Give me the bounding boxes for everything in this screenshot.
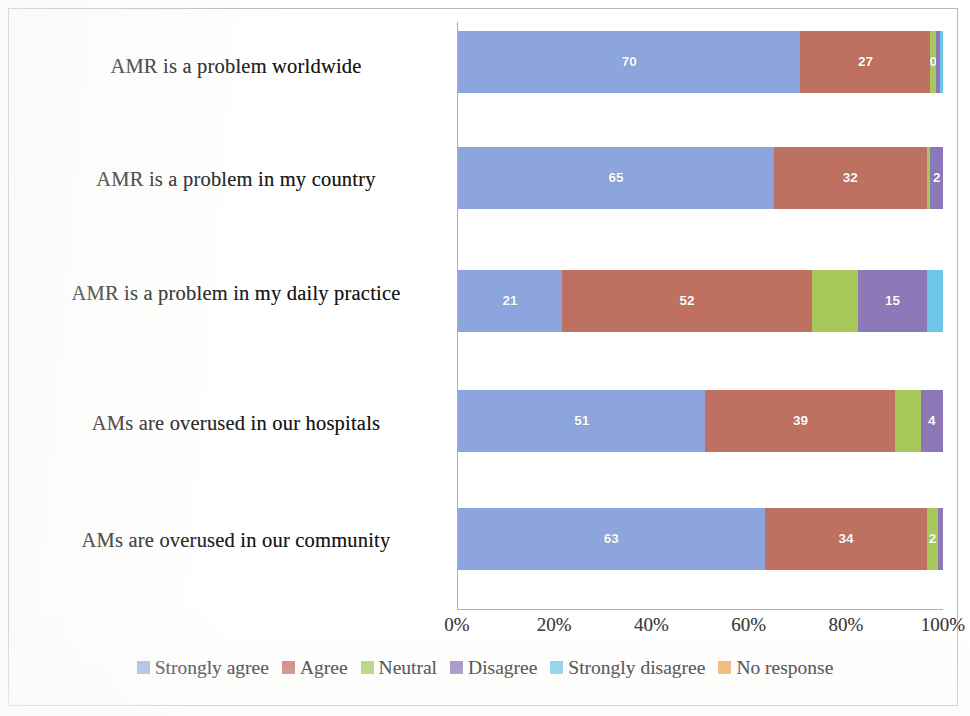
table-row[interactable]: 65 32 2 [458,147,943,209]
legend-swatch-icon [137,661,150,674]
legend-item-no-response[interactable]: No response [718,658,833,678]
bar-value-label: 63 [604,532,619,546]
legend-swatch-icon [450,661,463,674]
legend-label: Neutral [379,658,437,678]
legend-label: Agree [300,658,348,678]
bar-value-label: 65 [609,171,624,185]
legend-item-strongly-agree[interactable]: Strongly agree [137,658,269,678]
x-tick-40: 40% [634,614,669,636]
legend-swatch-icon [718,661,731,674]
bar-segment-strongly-agree[interactable]: 70 [458,31,800,93]
x-axis: 0% 20% 40% 60% 80% 100% [457,614,943,642]
x-tick-100: 100% [921,614,965,636]
x-tick-60: 60% [731,614,766,636]
bar-segment-agree[interactable]: 27 [800,31,930,93]
x-tick-0: 0% [444,614,469,636]
bar-value-label: 52 [679,294,694,308]
table-row[interactable]: 21 52 15 [458,270,943,332]
category-label-worldwide: AMR is a problem worldwide [30,54,442,79]
bar-segment-strongly-disagree[interactable] [940,31,943,93]
legend-item-strongly-disagree[interactable]: Strongly disagree [550,658,705,678]
legend: Strongly agree Agree Neutral Disagree St… [0,658,970,678]
bar-segment-agree[interactable]: 39 [705,390,895,452]
bar-segment-neutral[interactable] [895,390,920,452]
bar-segment-disagree[interactable]: 4 [921,390,943,452]
legend-swatch-icon [361,661,374,674]
legend-label: Strongly disagree [568,658,705,678]
table-row[interactable]: 51 39 4 [458,390,943,452]
bar-segment-agree[interactable]: 52 [562,270,812,332]
bar-value-label: 2 [929,532,937,546]
stacked-bar-chart: AMR is a problem worldwide AMR is a prob… [0,0,970,716]
bar-segment-disagree[interactable] [938,508,943,570]
category-label-my-country: AMR is a problem in my country [30,167,442,192]
bar-segment-strongly-agree[interactable]: 65 [458,147,774,209]
plot-area: 70 27 0 65 32 2 [457,22,943,610]
legend-label: Strongly agree [155,658,269,678]
bar-segment-strongly-agree[interactable]: 21 [458,270,562,332]
bar-segment-agree[interactable]: 32 [774,147,926,209]
bar-value-label: 21 [502,294,517,308]
bar-value-label: 2 [933,171,941,185]
legend-item-disagree[interactable]: Disagree [450,658,537,678]
table-row[interactable]: 70 27 0 [458,31,943,93]
category-label-daily-practice: AMR is a problem in my daily practice [30,281,442,306]
legend-label: Disagree [468,658,537,678]
bar-segment-strongly-agree[interactable]: 51 [458,390,705,452]
bar-value-label: 4 [928,414,936,428]
bar-value-label: 51 [574,414,589,428]
bar-segment-disagree[interactable]: 15 [858,270,928,332]
legend-swatch-icon [550,661,563,674]
legend-swatch-icon [282,661,295,674]
bar-value-label: 70 [622,55,637,69]
legend-label: No response [736,658,833,678]
bar-value-label: 39 [793,414,808,428]
bar-value-label: 34 [838,532,853,546]
bar-segment-strongly-agree[interactable]: 63 [458,508,765,570]
bar-value-label: 32 [843,171,858,185]
legend-item-neutral[interactable]: Neutral [361,658,437,678]
bar-segment-disagree[interactable]: 2 [930,147,943,209]
legend-item-agree[interactable]: Agree [282,658,348,678]
category-label-community: AMs are overused in our community [30,528,442,553]
bar-segment-agree[interactable]: 34 [765,508,928,570]
x-tick-80: 80% [828,614,863,636]
bar-segment-neutral[interactable] [812,270,858,332]
category-label-hospitals: AMs are overused in our hospitals [30,411,442,436]
bar-segment-strongly-disagree[interactable] [927,270,943,332]
bar-value-label: 15 [885,294,900,308]
table-row[interactable]: 63 34 2 [458,508,943,570]
bar-value-label: 27 [858,55,873,69]
bar-segment-neutral[interactable]: 2 [927,508,937,570]
x-tick-20: 20% [537,614,572,636]
